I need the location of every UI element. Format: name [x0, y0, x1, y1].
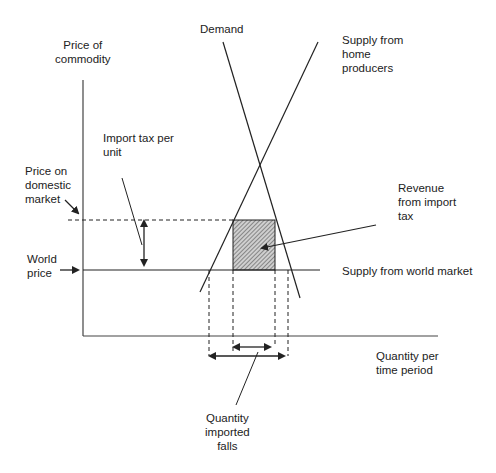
- home-supply-label: Supply from home producers: [342, 33, 403, 75]
- quantity-falls-label: Quantity imported falls: [205, 411, 250, 453]
- revenue-line3: tax: [398, 209, 456, 223]
- x-label-line1: Quantity per: [376, 349, 439, 363]
- demand-label: Demand: [200, 22, 243, 36]
- domestic-line3: market: [25, 192, 71, 206]
- tax-label: Import tax per unit: [103, 131, 174, 159]
- qty-line2: imported: [205, 425, 250, 439]
- import-tax-diagram: [0, 0, 496, 473]
- tax-line2: unit: [103, 145, 174, 159]
- world-line1: World: [27, 252, 57, 266]
- y-label-line1: Price of: [55, 38, 111, 52]
- home-supply-line2: home: [342, 47, 403, 61]
- tax-revenue-area: [233, 220, 275, 270]
- x-axis-label: Quantity per time period: [376, 349, 439, 377]
- revenue-line2: from import: [398, 195, 456, 209]
- y-axis-label: Price of commodity: [55, 38, 111, 66]
- revenue-line1: Revenue: [398, 181, 456, 195]
- world-supply-label: Supply from world market: [342, 264, 472, 278]
- domestic-price-label: Price on domestic market: [25, 164, 71, 206]
- qty-pointer: [236, 352, 258, 405]
- tax-pointer: [122, 178, 142, 245]
- y-label-line2: commodity: [55, 52, 111, 66]
- tax-line1: Import tax per: [103, 131, 174, 145]
- revenue-label: Revenue from import tax: [398, 181, 456, 223]
- domestic-line2: domestic: [25, 178, 71, 192]
- home-supply-line3: producers: [342, 61, 403, 75]
- qty-line1: Quantity: [205, 411, 250, 425]
- domestic-line1: Price on: [25, 164, 71, 178]
- world-line2: price: [27, 266, 57, 280]
- x-label-line2: time period: [376, 363, 439, 377]
- qty-line3: falls: [205, 439, 250, 453]
- world-price-label: World price: [27, 252, 57, 280]
- home-supply-line1: Supply from: [342, 33, 403, 47]
